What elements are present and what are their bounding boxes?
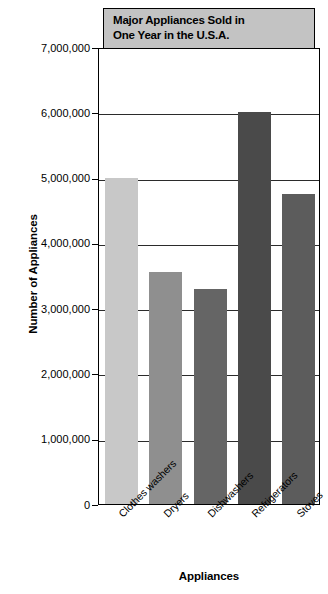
x-axis-tick-label: Dishwashers <box>205 469 255 519</box>
bar-chart: Number of Appliances 01,000,0002,000,000… <box>0 0 328 594</box>
chart-title-box: Major Appliances Sold in One Year in the… <box>103 8 315 49</box>
x-axis-tick-labels: Clothes washersDryersDishwashersRefriger… <box>0 0 328 594</box>
x-axis-title: Appliances <box>98 570 320 582</box>
x-axis-tick-label: Refrigerators <box>249 469 299 519</box>
chart-title-line-2: One Year in the U.S.A. <box>113 28 314 43</box>
chart-title-line-1: Major Appliances Sold in <box>113 13 314 28</box>
x-axis-tick-label: Stoves <box>294 489 325 520</box>
x-axis-tick-label: Dryers <box>161 490 191 520</box>
